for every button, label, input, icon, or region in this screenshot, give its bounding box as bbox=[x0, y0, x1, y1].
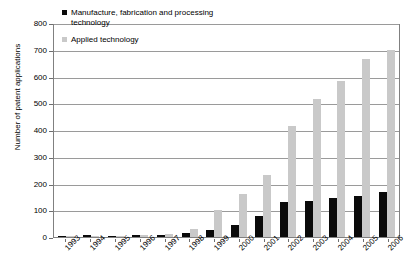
bar-series-container bbox=[54, 25, 399, 237]
bar-manufacture-1998 bbox=[182, 233, 190, 237]
x-label-cell: 1996 bbox=[127, 244, 152, 278]
x-label-cell: 1998 bbox=[177, 244, 202, 278]
plot-area bbox=[53, 24, 400, 238]
bar-applied-2001 bbox=[263, 175, 271, 237]
bar-manufacture-1995 bbox=[108, 236, 116, 237]
x-label-cell: 2000 bbox=[226, 244, 251, 278]
bar-manufacture-2001 bbox=[255, 216, 263, 237]
y-tick-label: 500 bbox=[0, 100, 47, 108]
bar-manufacture-2006 bbox=[379, 192, 387, 237]
bar-manufacture-2003 bbox=[305, 201, 313, 237]
bar-group bbox=[300, 25, 325, 237]
y-tick-mark bbox=[49, 78, 53, 79]
bar-group bbox=[54, 25, 79, 237]
legend-swatch-icon-applied bbox=[62, 37, 67, 42]
bar-group bbox=[103, 25, 128, 237]
bar-applied-2002 bbox=[288, 126, 296, 237]
y-tick-mark bbox=[49, 211, 53, 212]
x-label-cell: 1999 bbox=[202, 244, 227, 278]
y-tick-label: 400 bbox=[0, 127, 47, 135]
legend-swatch-icon-manufacture bbox=[62, 10, 67, 15]
bar-manufacture-1993 bbox=[58, 236, 66, 237]
y-tick-label: 0 bbox=[0, 234, 47, 242]
bar-manufacture-2002 bbox=[280, 202, 288, 237]
bar-manufacture-1994 bbox=[83, 235, 91, 237]
x-label-cell: 1994 bbox=[78, 244, 103, 278]
y-tick-label: 200 bbox=[0, 181, 47, 189]
bar-group bbox=[177, 25, 202, 237]
bar-applied-2006 bbox=[387, 50, 395, 237]
x-label-cell: 1995 bbox=[103, 244, 128, 278]
bar-applied-1999 bbox=[214, 210, 222, 237]
y-tick-label: 800 bbox=[0, 20, 47, 28]
bar-manufacture-2000 bbox=[231, 225, 239, 237]
bar-manufacture-1999 bbox=[206, 230, 214, 237]
bar-group bbox=[251, 25, 276, 237]
legend-label-applied: Applied technology bbox=[71, 35, 139, 45]
y-tick-mark bbox=[49, 104, 53, 105]
bar-applied-2000 bbox=[239, 194, 247, 237]
bar-group bbox=[153, 25, 178, 237]
bar-group bbox=[226, 25, 251, 237]
bar-applied-2004 bbox=[337, 81, 345, 237]
bar-manufacture-2005 bbox=[354, 196, 362, 237]
x-label-cell: 2003 bbox=[301, 244, 326, 278]
x-tick-labels: 1993199419951996199719981999200020012002… bbox=[53, 244, 400, 278]
chart-legend: Manufacture, fabrication and processing … bbox=[62, 8, 221, 52]
x-label-cell: 2004 bbox=[326, 244, 351, 278]
bar-manufacture-1997 bbox=[157, 235, 165, 237]
bar-group bbox=[79, 25, 104, 237]
y-tick-mark bbox=[49, 51, 53, 52]
bar-applied-2003 bbox=[313, 99, 321, 237]
legend-item-applied: Applied technology bbox=[62, 35, 221, 45]
y-tick-label: 700 bbox=[0, 47, 47, 55]
bar-manufacture-1996 bbox=[132, 235, 140, 237]
y-tick-mark bbox=[49, 131, 53, 132]
x-label-cell: 1993 bbox=[53, 244, 78, 278]
legend-label-manufacture: Manufacture, fabrication and processing … bbox=[71, 8, 221, 28]
bar-group bbox=[374, 25, 399, 237]
y-tick-label: 300 bbox=[0, 154, 47, 162]
y-tick-mark bbox=[49, 185, 53, 186]
bar-group bbox=[276, 25, 301, 237]
bar-applied-2005 bbox=[362, 59, 370, 237]
x-label-cell: 2005 bbox=[350, 244, 375, 278]
bar-group bbox=[350, 25, 375, 237]
x-label-cell: 2001 bbox=[251, 244, 276, 278]
patent-applications-bar-chart: Number of patent applications 0100200300… bbox=[0, 0, 409, 280]
y-tick-mark bbox=[49, 158, 53, 159]
x-label-cell: 2006 bbox=[375, 244, 400, 278]
bar-group bbox=[202, 25, 227, 237]
y-tick-label: 600 bbox=[0, 74, 47, 82]
bar-group bbox=[325, 25, 350, 237]
y-tick-label: 100 bbox=[0, 207, 47, 215]
bar-manufacture-2004 bbox=[329, 198, 337, 237]
bar-group bbox=[128, 25, 153, 237]
legend-item-manufacture: Manufacture, fabrication and processing … bbox=[62, 8, 221, 28]
x-label-cell: 1997 bbox=[152, 244, 177, 278]
y-tick-mark bbox=[49, 24, 53, 25]
x-label-cell: 2002 bbox=[276, 244, 301, 278]
